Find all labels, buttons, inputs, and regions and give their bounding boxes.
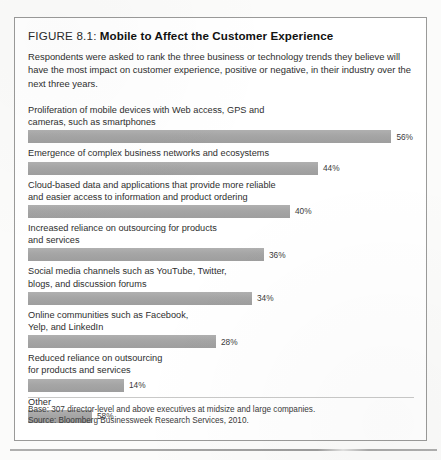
bar-group: Social media channels such as YouTube, T…	[28, 265, 413, 304]
bar-row: 28%	[28, 335, 413, 348]
bar-row: 44%	[28, 162, 413, 175]
bar-category-label: Social media channels such as YouTube, T…	[28, 265, 413, 289]
figure-header: FIGURE 8.1: Mobile to Affect the Custome…	[28, 29, 413, 43]
figure-description: Respondents were asked to rank the three…	[28, 50, 412, 90]
bar-row: 34%	[28, 292, 413, 305]
bar-group: Cloud-based data and applications that p…	[28, 179, 413, 218]
bar-fill	[28, 248, 264, 261]
bar-group: Emergence of complex business networks a…	[28, 147, 413, 174]
bar-value-label: 40%	[295, 206, 312, 216]
bar-row: 56%	[28, 130, 413, 143]
bar-group: Proliferation of mobile devices with Web…	[28, 104, 413, 143]
bar-category-label: Reduced reliance on outsourcing for prod…	[28, 352, 413, 376]
bar-value-label: 34%	[257, 293, 274, 303]
horizontal-bar-chart: Proliferation of mobile devices with Web…	[28, 104, 413, 423]
figure-container: FIGURE 8.1: Mobile to Affect the Custome…	[14, 17, 427, 441]
bar-group: Increased reliance on outsourcing for pr…	[28, 222, 413, 261]
bar-value-label: 44%	[323, 163, 340, 173]
bar-fill	[28, 292, 252, 305]
bar-group: Reduced reliance on outsourcing for prod…	[28, 352, 413, 391]
bar-fill	[28, 162, 318, 175]
bar-row: 36%	[28, 248, 413, 261]
bar-fill	[28, 379, 124, 392]
bar-value-label: 56%	[396, 132, 413, 142]
figure-number: FIGURE 8.1:	[28, 29, 97, 42]
bar-group: Online communities such as Facebook, Yel…	[28, 309, 413, 348]
bar-value-label: 36%	[269, 250, 286, 260]
footer-source-note: Source: Bloomberg Businessweek Research …	[28, 415, 414, 427]
bar-fill	[28, 335, 216, 348]
footer-base-note: Base: 307 director-level and above execu…	[28, 404, 414, 416]
bar-category-label: Cloud-based data and applications that p…	[28, 179, 413, 203]
bar-row: 40%	[28, 205, 413, 218]
bar-fill	[28, 205, 290, 218]
bar-row: 14%	[28, 379, 413, 392]
bar-value-label: 14%	[129, 380, 146, 390]
bar-category-label: Proliferation of mobile devices with Web…	[28, 104, 413, 128]
footer-divider	[28, 397, 414, 398]
page-edge-shadow	[10, 449, 437, 451]
bar-fill	[28, 130, 391, 143]
page-title: Mobile to Affect the Customer Experience	[100, 29, 334, 42]
bar-value-label: 28%	[221, 337, 238, 347]
bar-category-label: Increased reliance on outsourcing for pr…	[28, 222, 413, 246]
bar-category-label: Emergence of complex business networks a…	[28, 147, 413, 159]
figure-footer: Base: 307 director-level and above execu…	[28, 397, 414, 427]
bar-category-label: Online communities such as Facebook, Yel…	[28, 309, 413, 333]
